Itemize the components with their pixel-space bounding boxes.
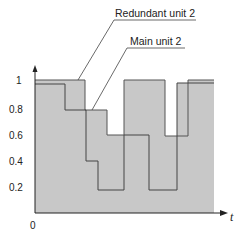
ytick-0.6: 0.6: [9, 130, 23, 141]
ytick-0.4: 0.4: [9, 156, 23, 167]
origin-label: 0: [30, 220, 36, 231]
ytick-0.2: 0.2: [9, 182, 23, 193]
x-axis-label: t: [230, 210, 234, 224]
ytick-1: 1: [16, 75, 22, 86]
leader-main: [92, 48, 127, 110]
ytick-0.8: 0.8: [9, 104, 23, 115]
availability-step-chart: Redundant unit 2 Main unit 2 1 0.8 0.6 0…: [0, 0, 241, 233]
y-axis-arrow-icon: [33, 65, 38, 72]
x-axis-arrow-icon: [220, 210, 228, 216]
label-main-unit-2: Main unit 2: [130, 35, 182, 47]
label-redundant-unit-2: Redundant unit 2: [115, 7, 195, 19]
leader-redundant: [78, 20, 114, 80]
